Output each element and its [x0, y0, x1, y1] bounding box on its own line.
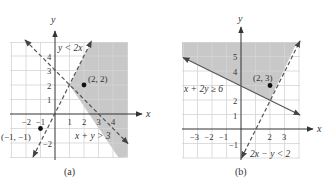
- svg-text:4: 4: [47, 52, 52, 62]
- axis-label-y-a: y: [50, 14, 56, 25]
- svg-text:5: 5: [233, 52, 237, 62]
- panel-b: x y −3 −2 −1 2 3 5 4 2 1 −1 x + 2y ≥ 6 2…: [182, 13, 322, 178]
- point-2-3: [268, 83, 273, 88]
- inequality-label-x-plus-2y-ge-6: x + 2y ≥ 6: [183, 84, 223, 94]
- point-2-2: [82, 83, 87, 88]
- svg-text:2: 2: [233, 96, 237, 106]
- axis-label-y-b: y: [237, 13, 243, 24]
- svg-text:2: 2: [268, 132, 272, 142]
- svg-text:−1: −1: [229, 140, 238, 150]
- inequality-label-y-lt-2x: y < 2x: [57, 43, 83, 53]
- svg-text:3: 3: [97, 117, 101, 127]
- svg-text:−1: −1: [219, 132, 228, 142]
- svg-text:−2: −2: [205, 132, 214, 142]
- point-label-2-3: (2, 3): [253, 73, 273, 83]
- svg-text:1: 1: [47, 95, 51, 105]
- svg-text:2: 2: [82, 117, 86, 127]
- x-ticks-b: −3 −2 −1 2 3: [190, 132, 286, 142]
- svg-text:3: 3: [47, 66, 51, 76]
- svg-text:−1: −1: [36, 117, 45, 127]
- axis-label-x-b: x: [316, 123, 322, 134]
- svg-text:1: 1: [68, 117, 72, 127]
- panel-a: x y −2 −1 1 2 3 4 4 3 2 1 −2 y < 2x x + …: [1, 14, 151, 178]
- point-label-2-2: (2, 2): [88, 74, 108, 84]
- svg-text:2: 2: [47, 81, 51, 91]
- figure: x y −2 −1 1 2 3 4 4 3 2 1 −2 y < 2x x + …: [0, 0, 329, 181]
- inequality-label-2x-minus-y-lt-2: 2x − y < 2: [250, 149, 291, 159]
- y-ticks-a: 4 3 2 1 −2: [43, 52, 52, 149]
- caption-a: (a): [64, 166, 75, 178]
- svg-text:−2: −2: [43, 139, 52, 149]
- axis-label-x-a: x: [145, 108, 151, 119]
- caption-b: (b): [235, 166, 247, 178]
- point-label-neg1-neg1: (−1, −1): [1, 132, 31, 142]
- svg-text:3: 3: [282, 132, 286, 142]
- inequality-label-x-plus-y-gt-3: x + y > 3: [74, 131, 111, 141]
- svg-text:1: 1: [233, 111, 237, 121]
- svg-text:−3: −3: [190, 132, 199, 142]
- svg-text:−2: −2: [22, 117, 31, 127]
